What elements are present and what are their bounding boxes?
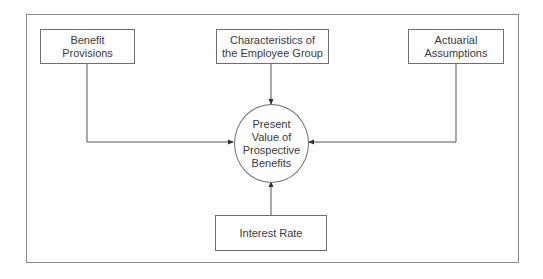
node-label: Characteristics of the Employee Group bbox=[222, 34, 323, 60]
node-label: Actuarial Assumptions bbox=[425, 34, 488, 60]
edge-actuarial-assumptions bbox=[309, 63, 456, 142]
node-label: Interest Rate bbox=[240, 227, 303, 240]
node-present-value: Present Value of Prospective Benefits bbox=[234, 104, 309, 183]
node-employee-group: Characteristics of the Employee Group bbox=[216, 29, 329, 64]
node-label: Benefit Provisions bbox=[62, 34, 113, 60]
node-label: Present Value of Prospective Benefits bbox=[243, 118, 300, 170]
node-actuarial-assumptions: Actuarial Assumptions bbox=[408, 29, 504, 64]
edge-benefit-provisions bbox=[87, 63, 233, 142]
node-interest-rate: Interest Rate bbox=[215, 215, 327, 251]
node-benefit-provisions: Benefit Provisions bbox=[40, 29, 135, 64]
